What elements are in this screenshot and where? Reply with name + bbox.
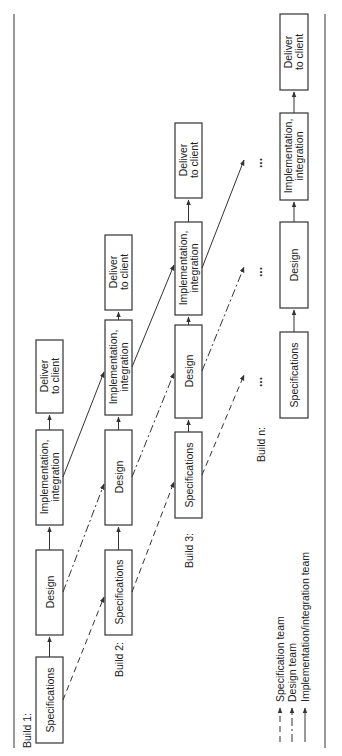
impl-team-arrow-b1-b2 [63, 372, 104, 477]
build-2: Build 2: Specifications Design Implement… [105, 235, 132, 677]
build-n-deliver-box: Deliver to client [280, 14, 308, 90]
svg-text:integration: integration [49, 452, 61, 501]
build-3-implementation-box: Implementation, integration [175, 222, 202, 315]
svg-text:Specifications: Specifications [183, 443, 195, 508]
svg-text:to client: to client [49, 358, 61, 394]
svg-text:to client: to client [188, 142, 200, 178]
build-2-design-box: Design [105, 430, 132, 525]
svg-text:integration: integration [118, 342, 130, 391]
svg-text:Design: Design [113, 460, 125, 493]
build-1-implementation-box: Implementation, integration [36, 430, 63, 525]
spec-team-arrow-b3-bn [202, 375, 244, 475]
spec-team-arrow-b1-b2 [63, 597, 104, 700]
build-2-specifications-box: Specifications [105, 550, 132, 635]
design-team-arrow-b2-b3 [132, 373, 174, 477]
build-1-design-box: Design [36, 550, 63, 635]
build-3: Build 3: Specifications Design Implement… [175, 123, 202, 568]
build-3-design-box: Design [175, 325, 202, 418]
spec-team-arrow-b2-b3 [132, 482, 174, 592]
legend-impl-team-label: Implementation/integration team [299, 552, 311, 702]
build-1-deliver-box: Deliver to client [36, 340, 63, 413]
ellipsis-specifications: ... [251, 377, 265, 387]
legend-design-team-label: Design team [286, 643, 298, 702]
svg-text:Design: Design [288, 248, 300, 281]
build-n-design-box: Design [280, 222, 308, 308]
svg-text:Design: Design [44, 575, 56, 608]
svg-text:Specifications: Specifications [113, 560, 125, 625]
svg-text:Specifications: Specifications [44, 668, 56, 733]
legend-spec-team-label: Specification team [274, 616, 286, 702]
ellipsis-design: ... [251, 267, 265, 277]
build-n: Build n: Specifications Design Implement… [255, 14, 308, 462]
svg-text:integration: integration [188, 243, 200, 292]
svg-text:to client: to client [293, 34, 305, 70]
build-3-label: Build 3: [183, 533, 195, 568]
svg-text:integration: integration [293, 131, 305, 180]
build-3-specifications-box: Specifications [175, 432, 202, 518]
svg-text:to client: to client [118, 254, 130, 290]
build-3-deliver-box: Deliver to client [175, 123, 202, 198]
impl-team-arrow-b2-b3 [132, 265, 174, 367]
build-n-implementation-box: Implementation, integration [280, 113, 308, 200]
impl-team-arrow-b3-bn [202, 160, 244, 268]
svg-text:Specifications: Specifications [288, 343, 300, 408]
build-1: Build 1: Specifications Design Implement… [21, 340, 63, 748]
design-team-arrow-b1-b2 [63, 484, 104, 592]
legend: Specification team Design team Implement… [274, 552, 311, 742]
build-2-label: Build 2: [113, 642, 125, 677]
build-1-label: Build 1: [21, 713, 33, 748]
svg-text:Design: Design [183, 354, 195, 387]
build-2-deliver-box: Deliver to client [105, 235, 132, 310]
ellipsis-implementation: ... [251, 158, 265, 168]
build-2-implementation-box: Implementation, integration [105, 320, 132, 415]
build-1-specifications-box: Specifications [36, 657, 63, 743]
incremental-model-diagram: Build 1: Specifications Design Implement… [0, 0, 342, 756]
build-n-label: Build n: [255, 427, 267, 462]
design-team-arrow-b3-bn [202, 267, 244, 371]
build-n-specifications-box: Specifications [280, 332, 308, 418]
